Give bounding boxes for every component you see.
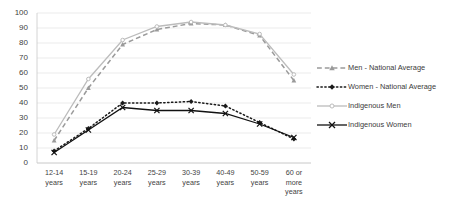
x-tick-label-line: more: [271, 178, 317, 188]
series-2: [52, 20, 295, 136]
data-point: [223, 104, 228, 109]
legend-item[interactable]: Indigenous Men: [316, 96, 452, 115]
data-point: [258, 32, 262, 36]
y-tick-label: 70: [4, 54, 28, 62]
x-tick-label: 60 ormoreyears: [271, 168, 317, 197]
x-tick-label-line: years: [271, 187, 317, 197]
legend-symbol-diamond-icon: [316, 80, 348, 94]
y-tick-label: 100: [4, 9, 28, 17]
data-point: [154, 101, 159, 106]
line-chart: 1009080706050403020100 12-14years15-19ye…: [0, 0, 452, 206]
data-point: [292, 73, 296, 77]
legend-label: Men - National Average: [348, 63, 425, 72]
y-tick-label: 90: [4, 24, 28, 32]
legend-label: Indigenous Men: [348, 101, 401, 110]
data-point: [189, 20, 193, 24]
chart-legend: Men - National AverageWomen - National A…: [316, 58, 452, 134]
series-line: [54, 108, 294, 153]
y-tick-label: 60: [4, 69, 28, 77]
legend-label: Women - National Average: [348, 82, 436, 91]
series-1: [52, 99, 297, 153]
data-point: [224, 23, 228, 27]
x-tick-label-line: 60 or: [271, 168, 317, 178]
y-tick-label: 30: [4, 114, 28, 122]
y-tick-label: 0: [4, 159, 28, 167]
y-tick-label: 20: [4, 129, 28, 137]
y-tick-label: 10: [4, 144, 28, 152]
legend-symbol-cross-icon: [316, 118, 348, 132]
series-3: [52, 105, 297, 155]
legend-label: Indigenous Women: [348, 120, 412, 129]
y-tick-label: 50: [4, 84, 28, 92]
legend-symbol-triangle-icon: [316, 61, 348, 75]
y-tick-label: 80: [4, 39, 28, 47]
gridlines: [37, 13, 311, 163]
legend-item[interactable]: Men - National Average: [316, 58, 452, 77]
data-point: [87, 77, 91, 81]
legend-item[interactable]: Women - National Average: [316, 77, 452, 96]
y-tick-label: 40: [4, 99, 28, 107]
legend-symbol-circle-icon: [316, 99, 348, 113]
legend-item[interactable]: Indigenous Women: [316, 115, 452, 134]
data-point: [52, 133, 56, 137]
data-point: [155, 25, 159, 29]
data-point: [121, 38, 125, 42]
